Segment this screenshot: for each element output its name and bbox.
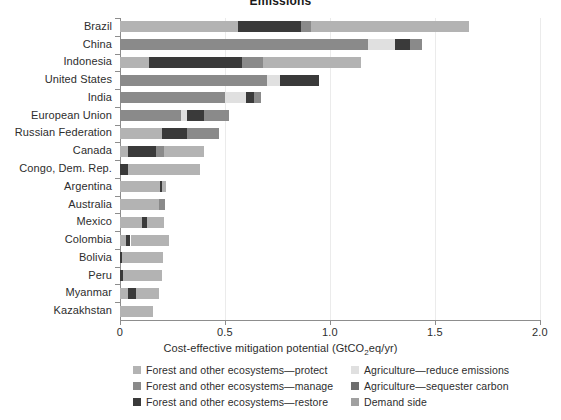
- bar-row[interactable]: [120, 92, 261, 103]
- legend-item[interactable]: Agriculture—reduce emissions: [351, 364, 509, 376]
- bar-segment[interactable]: [187, 110, 204, 121]
- category-label: China: [0, 38, 112, 50]
- bar-segment[interactable]: [301, 21, 312, 32]
- y-axis-tick: [115, 196, 120, 197]
- bar-segment[interactable]: [311, 21, 469, 32]
- y-axis-tick: [115, 89, 120, 90]
- bar-segment[interactable]: [159, 199, 165, 210]
- y-axis-tick: [115, 71, 120, 72]
- bar-segment[interactable]: [120, 128, 162, 139]
- legend-item[interactable]: Forest and other ecosystems—manage: [133, 380, 333, 392]
- bar-segment[interactable]: [263, 57, 362, 68]
- bar-segment[interactable]: [156, 146, 164, 157]
- bar-segment[interactable]: [120, 288, 128, 299]
- y-axis-tick: [115, 125, 120, 126]
- category-label: India: [0, 91, 112, 103]
- legend-label: Demand side: [364, 396, 427, 408]
- legend-item[interactable]: Forest and other ecosystems—protect: [133, 364, 328, 376]
- bar-segment[interactable]: [120, 164, 128, 175]
- bar-segment[interactable]: [120, 199, 159, 210]
- bar-segment[interactable]: [395, 39, 410, 50]
- x-axis-tick-label: 0: [100, 326, 140, 338]
- bar-segment[interactable]: [136, 288, 159, 299]
- bar-segment[interactable]: [120, 92, 225, 103]
- bar-segment[interactable]: [187, 128, 219, 139]
- bar-row[interactable]: [120, 57, 362, 68]
- category-label: Australia: [0, 198, 112, 210]
- x-axis-tick: [120, 320, 121, 325]
- chart-title: Emissions: [0, 0, 561, 8]
- x-axis-tick-label: 2.0: [520, 326, 560, 338]
- bar-row[interactable]: [120, 235, 169, 246]
- y-axis-tick: [115, 160, 120, 161]
- bar-row[interactable]: [120, 252, 163, 263]
- bar-segment[interactable]: [131, 235, 170, 246]
- bar-segment[interactable]: [238, 21, 301, 32]
- bar-segment[interactable]: [122, 252, 163, 263]
- bar-segment[interactable]: [120, 39, 368, 50]
- gridline: [540, 18, 541, 320]
- y-axis-tick: [115, 18, 120, 19]
- bar-row[interactable]: [120, 306, 153, 317]
- bar-segment[interactable]: [267, 75, 280, 86]
- legend-item[interactable]: Forest and other ecosystems—restore: [133, 396, 328, 408]
- bar-segment[interactable]: [120, 75, 267, 86]
- bar-segment[interactable]: [280, 75, 320, 86]
- bar-row[interactable]: [120, 21, 469, 32]
- bar-segment[interactable]: [128, 146, 155, 157]
- bar-segment[interactable]: [147, 217, 164, 228]
- bar-segment[interactable]: [123, 270, 162, 281]
- category-label: Colombia: [0, 233, 112, 245]
- y-axis-tick: [115, 249, 120, 250]
- category-label: Indonesia: [0, 55, 112, 67]
- bar-row[interactable]: [120, 146, 204, 157]
- bar-row[interactable]: [120, 181, 166, 192]
- y-axis-tick: [115, 36, 120, 37]
- bar-row[interactable]: [120, 164, 200, 175]
- bar-row[interactable]: [120, 39, 422, 50]
- x-axis-tick-label: 1.0: [310, 326, 350, 338]
- legend-swatch-icon: [351, 398, 359, 406]
- legend-swatch-icon: [351, 382, 359, 390]
- bar-segment[interactable]: [128, 288, 135, 299]
- bar-row[interactable]: [120, 199, 165, 210]
- category-label: United States: [0, 73, 112, 85]
- bar-segment[interactable]: [246, 92, 254, 103]
- bar-row[interactable]: [120, 75, 320, 86]
- chart-legend: Forest and other ecosystems—protectFores…: [133, 364, 553, 416]
- category-label: Kazakhstan: [0, 304, 112, 316]
- bar-segment[interactable]: [120, 21, 238, 32]
- bar-row[interactable]: [120, 288, 159, 299]
- chart-container: Emissions BrazilChinaIndonesiaUnited Sta…: [0, 0, 561, 420]
- legend-item[interactable]: Agriculture—sequester carbon: [351, 380, 509, 392]
- bar-segment[interactable]: [254, 92, 260, 103]
- x-axis-tick: [435, 320, 436, 325]
- y-axis-tick: [115, 107, 120, 108]
- bar-segment[interactable]: [242, 57, 263, 68]
- bar-segment[interactable]: [225, 92, 246, 103]
- bar-row[interactable]: [120, 217, 164, 228]
- x-axis-tick: [330, 320, 331, 325]
- legend-item[interactable]: Demand side: [351, 396, 427, 408]
- category-label: Myanmar: [0, 286, 112, 298]
- bar-segment[interactable]: [162, 181, 166, 192]
- bar-row[interactable]: [120, 270, 162, 281]
- bar-segment[interactable]: [120, 57, 149, 68]
- bar-segment[interactable]: [149, 57, 241, 68]
- bar-segment[interactable]: [162, 128, 187, 139]
- bar-row[interactable]: [120, 110, 229, 121]
- bar-segment[interactable]: [120, 306, 153, 317]
- bar-segment[interactable]: [120, 217, 142, 228]
- bar-segment[interactable]: [120, 110, 181, 121]
- bar-row[interactable]: [120, 128, 219, 139]
- bar-segment[interactable]: [368, 39, 395, 50]
- y-axis-tick: [115, 142, 120, 143]
- bar-segment[interactable]: [410, 39, 423, 50]
- bar-segment[interactable]: [204, 110, 229, 121]
- y-axis-tick: [115, 231, 120, 232]
- bar-segment[interactable]: [164, 146, 204, 157]
- bar-segment[interactable]: [120, 146, 128, 157]
- x-axis-tick: [225, 320, 226, 325]
- bar-segment[interactable]: [128, 164, 199, 175]
- bar-segment[interactable]: [120, 181, 160, 192]
